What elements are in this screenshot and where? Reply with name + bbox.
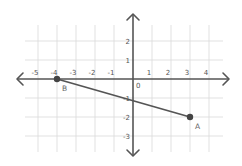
x-tick-label: -2 bbox=[89, 69, 96, 77]
x-tick-label: 2 bbox=[166, 69, 170, 77]
origin-label: 0 bbox=[136, 82, 140, 90]
x-tick-label: 3 bbox=[185, 69, 189, 77]
y-tick-label: -3 bbox=[123, 133, 130, 141]
x-tick-label: 1 bbox=[147, 69, 151, 77]
point-B bbox=[54, 76, 60, 82]
tick-labels: -5-4-3-2-1123421-1-2-3 bbox=[32, 38, 209, 141]
y-tick-label: 2 bbox=[126, 38, 130, 46]
y-tick-label: -2 bbox=[123, 114, 130, 122]
y-tick-label: 1 bbox=[126, 57, 130, 65]
coordinate-plane: -5-4-3-2-1123421-1-2-3 0 AB bbox=[0, 0, 242, 166]
x-tick-label: -4 bbox=[51, 69, 59, 77]
x-tick-label: 4 bbox=[204, 69, 209, 77]
point-A bbox=[187, 114, 193, 120]
x-tick-label: -1 bbox=[108, 69, 115, 77]
x-tick-label: -3 bbox=[70, 69, 77, 77]
point-label-B: B bbox=[62, 84, 67, 93]
x-tick-label: -5 bbox=[32, 69, 39, 77]
point-label-A: A bbox=[195, 122, 201, 131]
